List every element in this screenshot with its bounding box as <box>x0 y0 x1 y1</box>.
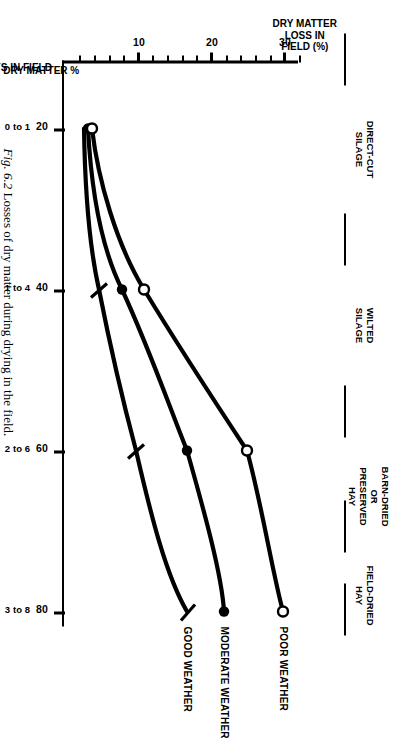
category-divider <box>344 500 346 552</box>
series-label-poor: POOR WEATHER <box>278 626 289 710</box>
category-label-line: FIELD-DRIED <box>365 553 376 637</box>
category-label-line: SILAGE <box>354 266 365 384</box>
figure-caption: Fig. 6.2 Losses of dry matter during dry… <box>0 148 16 436</box>
series-path-poor <box>92 128 283 611</box>
category-label-line: OR <box>369 438 380 554</box>
figure-caption-text: Losses of dry matter during drying in th… <box>1 192 16 436</box>
category-label-field-dried-hay: FIELD-DRIED HAY <box>354 553 376 637</box>
category-divider <box>344 213 346 265</box>
category-label-wilted-silage: WILTED SILAGE <box>354 266 376 384</box>
category-label-line: HAY <box>354 553 365 637</box>
figure-caption-prefix: Fig. 6.2 <box>1 148 16 189</box>
category-divider <box>344 385 346 437</box>
series-label-good: GOOD WEATHER <box>182 626 193 712</box>
category-label-direct-cut-silage: DIRECT-CUT SILAGE <box>354 86 376 212</box>
category-label-line: WILTED <box>365 266 376 384</box>
series-path-good <box>84 128 187 611</box>
category-label-line: PRESERVED <box>358 438 369 554</box>
series-label-moderate: MODERATE WEATHER <box>219 626 230 738</box>
category-divider <box>344 583 346 635</box>
category-label-line: SILAGE <box>354 86 365 212</box>
category-label-line: DIRECT-CUT <box>365 86 376 212</box>
category-label-line: BARN-DRIED <box>380 438 391 554</box>
category-divider <box>344 33 346 85</box>
category-label-barn-dried-hay: BARN-DRIED OR PRESERVED HAY <box>347 438 391 554</box>
category-label-line: HAY <box>347 438 358 554</box>
